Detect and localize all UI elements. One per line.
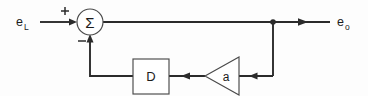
plus-sign-mark	[61, 7, 69, 15]
input-signal-label: e L	[16, 15, 29, 32]
input-signal-subscript: L	[24, 22, 29, 32]
arrowhead-into-gain	[249, 72, 258, 79]
feedback-path-group	[87, 22, 274, 80]
input-signal-base: e	[16, 15, 23, 29]
summing-junction-label: Σ	[85, 14, 94, 31]
delay-block: D	[133, 59, 169, 94]
arrowhead-into-delay	[181, 72, 190, 79]
arrowhead-output	[298, 18, 308, 25]
delay-block-label: D	[146, 69, 155, 84]
arrowhead-into-summer	[69, 19, 77, 26]
gain-block: a	[205, 57, 239, 95]
diagram-canvas: Σ D a e L e	[0, 0, 368, 96]
block-diagram-figure: Σ D a e L e	[0, 0, 368, 96]
gain-block-label: a	[223, 70, 230, 84]
output-signal-base: e	[337, 15, 344, 29]
output-signal-label: e o	[337, 15, 350, 32]
output-signal-subscript: o	[345, 22, 350, 32]
summing-junction: Σ	[77, 9, 103, 35]
